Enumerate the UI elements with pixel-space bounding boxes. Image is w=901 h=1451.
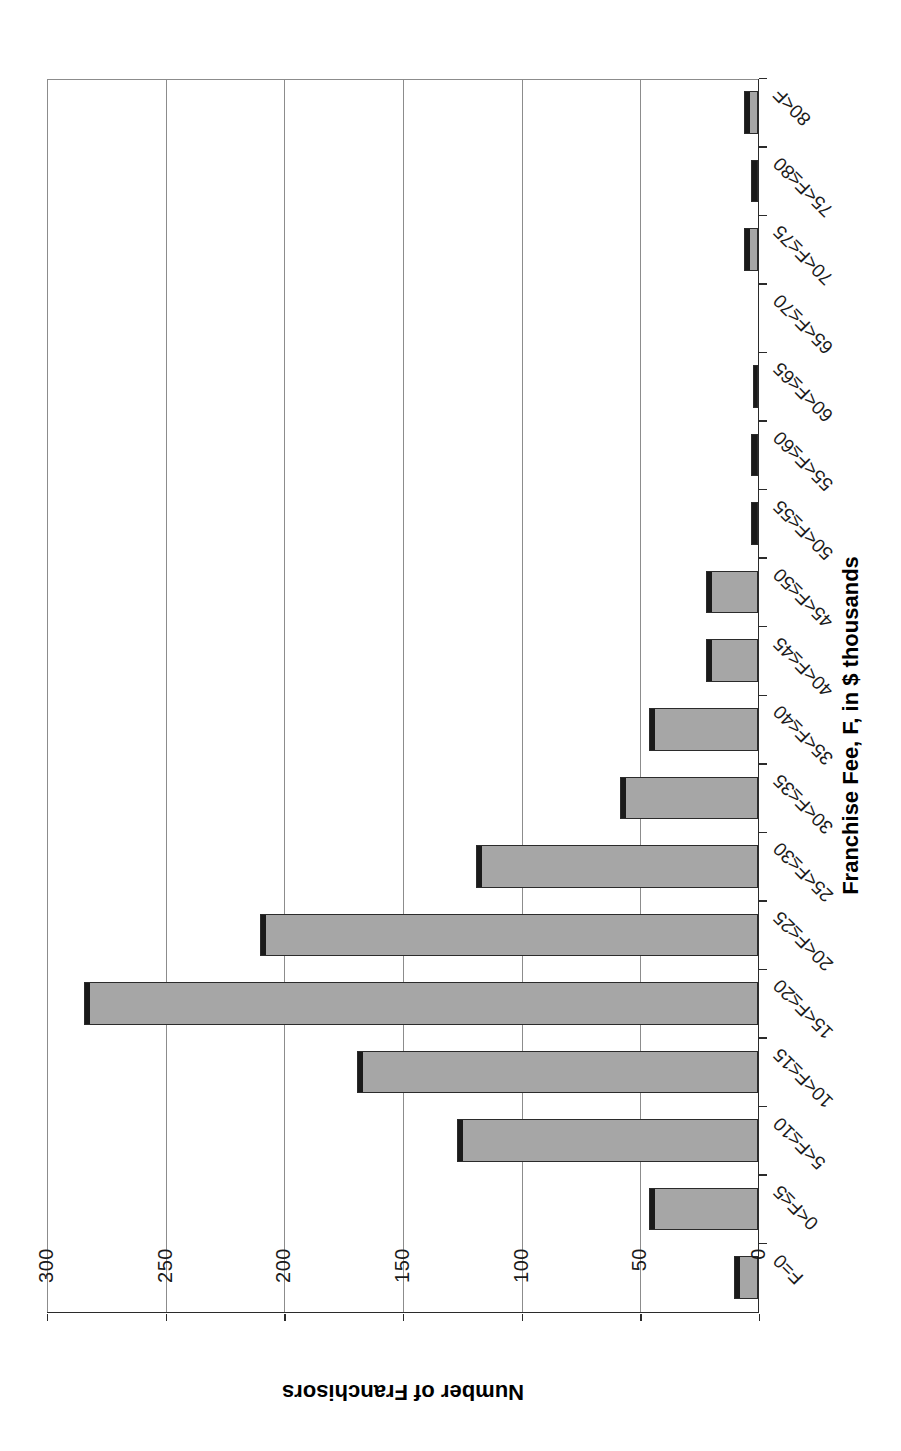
y-axis-tick-mark xyxy=(403,1314,404,1321)
x-axis-tick-mark xyxy=(759,283,767,284)
bar-rect[interactable] xyxy=(744,91,758,134)
bar[interactable] xyxy=(649,708,758,751)
y-axis-tick-label: 50 xyxy=(628,1236,651,1271)
bar[interactable] xyxy=(751,434,758,477)
y-axis-tick-mark xyxy=(640,1314,641,1321)
bar-rect[interactable] xyxy=(476,845,758,888)
x-axis-tick-label: 25<F≤30 xyxy=(769,838,838,907)
x-axis-tick-mark xyxy=(759,558,767,559)
bar[interactable] xyxy=(734,1256,758,1299)
x-axis-tick-label: 45<F≤50 xyxy=(769,564,838,633)
bar-rect[interactable] xyxy=(457,1119,758,1162)
x-axis-tick-mark xyxy=(759,832,767,833)
bar-rect[interactable] xyxy=(84,982,758,1025)
bar[interactable] xyxy=(706,639,758,682)
bar[interactable] xyxy=(260,914,758,957)
bar-rect[interactable] xyxy=(649,708,758,751)
bar[interactable] xyxy=(751,502,758,545)
bar-rect[interactable] xyxy=(706,571,758,614)
x-axis-title: Franchise Fee, F, in $ thousands xyxy=(838,0,864,1451)
x-axis-tick-label: 70<F≤75 xyxy=(769,221,838,290)
bar[interactable] xyxy=(357,1051,758,1094)
x-axis-tick-label: 30<F≤35 xyxy=(769,769,838,838)
bar-rect[interactable] xyxy=(751,160,758,203)
bar[interactable] xyxy=(476,845,758,888)
bar-rect[interactable] xyxy=(753,365,758,408)
x-axis-tick-label: 35<F≤40 xyxy=(769,701,838,770)
y-axis-tick-label: 250 xyxy=(154,1236,177,1283)
x-axis-tick-label: 50<F≤55 xyxy=(769,495,838,564)
y-axis-tick-mark xyxy=(284,1314,285,1321)
y-axis-tick-label: 150 xyxy=(391,1236,414,1283)
x-axis-tick-label: 60<F≤65 xyxy=(769,358,838,427)
bar[interactable] xyxy=(649,1188,758,1231)
x-axis-tick-label: 15<F≤20 xyxy=(769,975,838,1044)
y-axis-title: Number of Franchisors xyxy=(47,1379,759,1405)
bar-rect[interactable] xyxy=(734,1256,758,1299)
x-axis-tick-mark xyxy=(759,489,767,490)
y-axis-tick-label: 0 xyxy=(747,1236,770,1260)
bar-rect[interactable] xyxy=(260,914,758,957)
bar-series xyxy=(47,79,758,1312)
bar[interactable] xyxy=(753,365,758,408)
plot-area xyxy=(47,79,759,1313)
x-axis-tick-label: 65<F≤70 xyxy=(769,289,838,358)
y-axis-tick-label: 200 xyxy=(272,1236,295,1283)
bar-rect[interactable] xyxy=(744,228,758,271)
bar-rect[interactable] xyxy=(357,1051,758,1094)
x-axis-tick-mark xyxy=(759,969,767,970)
bar-rect[interactable] xyxy=(649,1188,758,1231)
bar[interactable] xyxy=(751,160,758,203)
x-axis-tick-mark xyxy=(759,78,767,79)
x-axis-tick-label: 20<F≤25 xyxy=(769,906,838,975)
x-axis-tick-label: 40<F≤45 xyxy=(769,632,838,701)
x-axis-tick-label: 55<F≤60 xyxy=(769,427,838,496)
x-axis-tick-mark xyxy=(759,215,767,216)
x-axis-tick-mark xyxy=(759,420,767,421)
y-axis-tick-mark xyxy=(47,1314,48,1321)
y-axis-tick-label: 300 xyxy=(35,1236,58,1283)
plot-outer: 050100150200250300 F=00<F≤55<F≤1010<F≤15… xyxy=(0,0,901,1451)
y-axis-tick-mark xyxy=(759,1314,760,1321)
y-axis-tick-mark xyxy=(522,1314,523,1321)
x-axis-tick-mark xyxy=(759,1243,767,1244)
x-axis-tick-mark xyxy=(759,1106,767,1107)
x-axis-tick-mark xyxy=(759,626,767,627)
x-axis-tick-mark xyxy=(759,900,767,901)
bar-rect[interactable] xyxy=(620,777,758,820)
x-axis-tick-label: 75<F≤80 xyxy=(769,152,838,221)
chart-figure: 050100150200250300 F=00<F≤55<F≤1010<F≤15… xyxy=(0,0,901,1451)
bar[interactable] xyxy=(84,982,758,1025)
x-axis-tick-label: F=0 xyxy=(769,1249,808,1288)
bar[interactable] xyxy=(744,91,758,134)
bar-rect[interactable] xyxy=(751,434,758,477)
x-axis-tick-mark xyxy=(759,695,767,696)
bar[interactable] xyxy=(620,777,758,820)
rotated-figure-wrapper: 050100150200250300 F=00<F≤55<F≤1010<F≤15… xyxy=(0,0,901,1451)
x-axis-tick-mark xyxy=(759,1037,767,1038)
bar[interactable] xyxy=(457,1119,758,1162)
bar-rect[interactable] xyxy=(706,639,758,682)
x-axis-tick-label: 10<F≤15 xyxy=(769,1044,838,1113)
x-axis-tick-label: 5<F≤10 xyxy=(769,1112,830,1173)
y-axis-tick-label: 100 xyxy=(510,1236,533,1283)
bar[interactable] xyxy=(706,571,758,614)
x-axis-tick-mark xyxy=(759,763,767,764)
x-axis-tick-mark xyxy=(759,352,767,353)
x-axis-tick-label: 80<F xyxy=(769,84,816,131)
x-axis-tick-mark xyxy=(759,146,767,147)
bar[interactable] xyxy=(744,228,758,271)
y-axis-tick-mark xyxy=(166,1314,167,1321)
x-axis-tick-mark xyxy=(759,1175,767,1176)
bar-rect[interactable] xyxy=(751,502,758,545)
x-axis-tick-label: 0<F≤5 xyxy=(769,1181,823,1235)
